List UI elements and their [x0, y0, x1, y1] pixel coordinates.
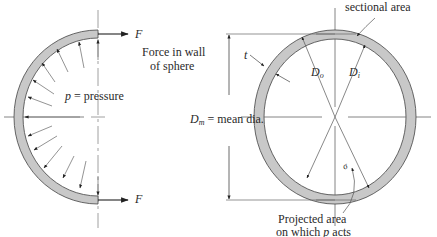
force-caption-line2: of sphere: [150, 60, 194, 73]
mean-diameter-label: Dm = mean dia.: [190, 113, 264, 129]
mean-dia-text: = mean dia.: [204, 112, 263, 126]
di-leader-lower: [335, 117, 369, 188]
force-label-top: F: [135, 28, 142, 41]
outer-dia-symbol: D: [311, 65, 320, 79]
mean-dia-symbol: D: [190, 112, 199, 126]
outer-dia-sub: o: [320, 71, 324, 80]
thickness-arrow-in: [276, 74, 290, 82]
projected-line2-prefix: on which: [276, 225, 323, 237]
pressure-label: p = pressure: [65, 90, 124, 103]
force-label-bottom: F: [135, 193, 142, 206]
pressure-text: = pressure: [71, 89, 124, 103]
projected-line2-suffix: acts: [329, 225, 351, 237]
sectional-area-leader: [357, 18, 375, 36]
inner-dia-sub: i: [358, 71, 360, 80]
projected-area-leader: [343, 168, 355, 213]
thickness-arrow-out: [250, 55, 264, 66]
projected-area-line2: on which p acts: [276, 226, 351, 237]
inner-dia-symbol: D: [349, 65, 358, 79]
outer-diameter-label: Do: [311, 66, 324, 82]
force-caption-line1: Force in wall: [142, 46, 205, 59]
sectional-area-label: sectional area: [345, 1, 411, 14]
inner-diameter-label: Di: [349, 66, 360, 82]
do-leader-lower: [307, 117, 335, 178]
hemisphere-free-body: [4, 10, 128, 228]
thickness-label: t: [244, 49, 247, 62]
